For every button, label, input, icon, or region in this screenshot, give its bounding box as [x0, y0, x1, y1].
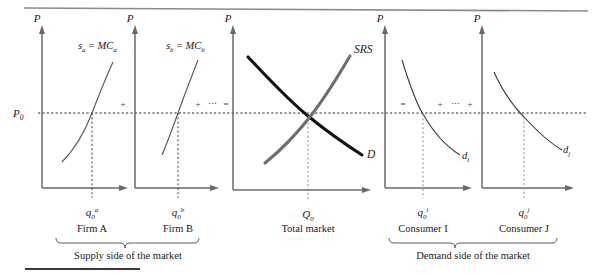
axis-label-p-panel1: P: [33, 12, 41, 24]
q-b-sub: 0: [177, 213, 181, 221]
q-i-sup: i: [427, 206, 429, 214]
y-axis-arrow: [132, 25, 138, 34]
caption-total-market: Total market: [281, 223, 334, 234]
caption-consumer-j: Consumer J: [499, 223, 549, 234]
curve-label-mc-a-sub: a: [113, 46, 117, 54]
axis-label-p-panel5: P: [473, 12, 481, 24]
operator-demand-plus-1: +: [437, 99, 442, 109]
curve-label-d-i-sub: i: [467, 156, 469, 164]
operator-supply-plus-1: +: [120, 99, 125, 109]
quantity-label-consumer-i: q0i: [418, 206, 429, 221]
curve-label-s-a-sub: a: [82, 46, 86, 54]
axis-label-p-panel4: P: [376, 12, 384, 24]
operator-demand-dots: ⋯: [451, 99, 460, 109]
price-label-sub: 0: [20, 113, 24, 122]
panel-consumer-i: [382, 25, 472, 198]
quantity-label-firm-b: q0b: [172, 206, 185, 221]
panel-firm-b: [132, 25, 219, 198]
axis-label-p-panel2: P: [126, 12, 134, 24]
q-b-sup: b: [181, 206, 185, 214]
quantity-label-firm-a: q0a: [86, 206, 99, 221]
curve-label-consumer-j: dj: [563, 144, 570, 158]
y-axis-arrow: [39, 25, 45, 34]
y-axis-arrow: [382, 25, 388, 34]
curve-label-d-j-sub: j: [567, 150, 570, 158]
x-axis-arrow: [565, 185, 574, 191]
y-axis-arrow: [479, 25, 485, 34]
supply-curve-firm-b: [162, 60, 198, 155]
q-total-main: Q: [302, 208, 310, 220]
demand-curve-consumer-j: [494, 72, 562, 150]
curve-label-eq-a: =: [89, 40, 95, 51]
q-j-sub: 0: [524, 213, 528, 221]
x-axis-arrow: [463, 185, 472, 191]
curve-label-firm-b: sb=MCb: [166, 40, 205, 54]
brace-caption-demand: Demand side of the market: [416, 250, 530, 261]
curve-label-mc-a: MC: [97, 40, 115, 51]
price-axis-label: P0: [12, 107, 24, 122]
operator-supply-plus-2: +: [195, 99, 200, 109]
supply-curve-market: [265, 56, 350, 163]
curve-label-srs: SRS: [354, 43, 373, 55]
curve-label-firm-a: sa=MCa: [78, 40, 117, 54]
supply-curve-firm-a: [62, 62, 113, 162]
top-rule: [24, 8, 588, 11]
caption-firm-b: Firm B: [163, 223, 193, 234]
brace-supply-side: [56, 238, 199, 248]
axis-label-p-panel3: P: [224, 12, 232, 24]
brace-caption-supply: Supply side of the market: [74, 250, 182, 261]
curve-label-eq-b: =: [177, 40, 183, 51]
q-j-sup: j: [527, 206, 530, 214]
q-a-sup: a: [95, 206, 99, 214]
demand-curve-market: [248, 57, 362, 155]
caption-consumer-i: Consumer I: [398, 223, 448, 234]
operator-supply-dots: ⋯: [208, 99, 217, 109]
curve-label-mc-b-sub: b: [201, 46, 205, 54]
quantity-label-total-market: Q0: [302, 208, 314, 223]
curve-label-d: D: [366, 148, 376, 160]
operator-demand-equals: =: [400, 99, 405, 109]
curve-label-s-b-sub: b: [170, 46, 174, 54]
q-i-sub: 0: [423, 213, 427, 221]
economics-figure: P P P P P P0 sa=MCa sb=MCb SRS D di dj +…: [0, 0, 594, 275]
brace-demand-side: [389, 238, 557, 248]
y-axis-arrow: [230, 25, 236, 34]
x-axis-arrow: [210, 185, 219, 191]
operator-supply-equals: =: [223, 99, 228, 109]
q-total-sub: 0: [310, 215, 314, 223]
curve-label-consumer-i: di: [462, 150, 469, 164]
panel-consumer-j: [479, 25, 574, 198]
x-axis-arrow: [362, 187, 371, 193]
curve-label-mc-b: MC: [185, 40, 203, 51]
q-a-sub: 0: [91, 213, 95, 221]
x-axis-arrow: [119, 185, 128, 191]
caption-firm-a: Firm A: [77, 223, 107, 234]
operator-demand-plus-2: +: [467, 99, 472, 109]
quantity-label-consumer-j: q0j: [519, 206, 530, 221]
